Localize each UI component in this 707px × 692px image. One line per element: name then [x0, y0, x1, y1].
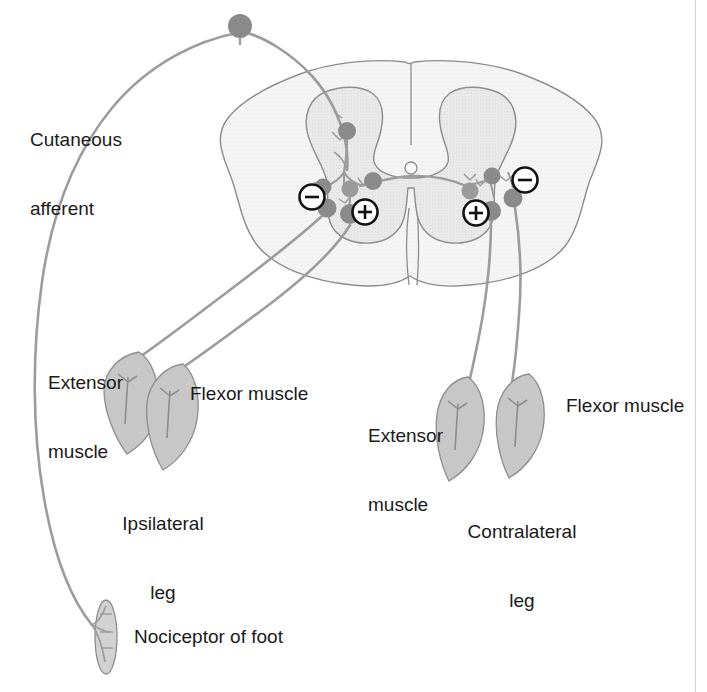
ipsilateral-interneuron-b: [342, 181, 359, 198]
label-cutaneous-afferent: Cutaneous afferent: [30, 82, 122, 266]
label-contra-leg-line2: leg: [452, 589, 592, 612]
label-ipsi-extensor-line1: Extensor: [48, 371, 123, 394]
contralateral-interneuron-b: [462, 183, 479, 200]
label-ipsilateral-flexor-muscle: Flexor muscle: [190, 382, 308, 405]
dorsal-horn-interneuron: [338, 122, 356, 140]
label-contra-extensor-line2: muscle: [368, 493, 443, 516]
label-ipsi-leg-line2: leg: [108, 581, 218, 604]
contralateral-inhibitory-sign: [513, 168, 538, 193]
dorsal-root-ganglion-cell-body: [228, 14, 252, 38]
label-ipsi-extensor-line2: muscle: [48, 440, 123, 463]
figure-canvas: Cutaneous afferent Extensor muscle Flexo…: [0, 0, 707, 692]
contralateral-excitatory-sign: [464, 201, 489, 226]
label-ipsilateral-leg: Ipsilateral leg: [108, 466, 218, 650]
ipsilateral-inhibitory-sign: [300, 185, 325, 210]
label-nociceptor-of-foot: Nociceptor of foot: [134, 625, 283, 648]
ipsilateral-excitatory-sign: [353, 200, 378, 225]
label-contralateral-leg: Contralateral leg: [452, 474, 592, 658]
commissural-interneuron: [364, 172, 382, 190]
label-cutaneous-afferent-line2: afferent: [30, 197, 122, 220]
label-cutaneous-afferent-line1: Cutaneous: [30, 128, 122, 151]
label-contra-leg-line1: Contralateral: [452, 520, 592, 543]
contralateral-flexor-muscle: [496, 374, 544, 478]
central-canal: [405, 162, 417, 174]
label-contralateral-extensor-muscle: Extensor muscle: [368, 378, 443, 562]
label-contralateral-flexor-muscle: Flexor muscle: [566, 394, 684, 417]
label-ipsi-leg-line1: Ipsilateral: [108, 512, 218, 535]
contralateral-interneuron-a: [484, 168, 501, 185]
label-contra-extensor-line1: Extensor: [368, 424, 443, 447]
contralateral-extensor-muscle: [436, 377, 484, 481]
page-border-rule: [695, 0, 696, 692]
